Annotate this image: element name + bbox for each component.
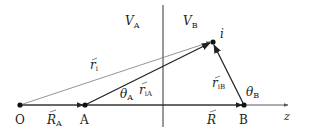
point-i: [210, 39, 215, 44]
diagram-canvas: O A B i z VA VB ri riA riB RA R θA θB: [0, 0, 310, 132]
label-O: O: [15, 113, 25, 127]
svg-text:R: R: [206, 113, 216, 127]
label-r-iB: riB: [212, 76, 225, 91]
label-R: R: [206, 110, 216, 127]
point-A: [82, 102, 87, 107]
label-B: B: [239, 113, 248, 127]
point-O: [17, 102, 22, 107]
vector-r-i: [20, 42, 210, 105]
label-z: z: [283, 110, 290, 123]
svg-text:ri: ri: [90, 58, 99, 73]
point-B: [241, 102, 246, 107]
label-theta-B: θB: [246, 85, 259, 100]
label-V-A: VA: [125, 14, 140, 30]
label-r-iA: riA: [139, 82, 153, 98]
label-theta-A: θA: [120, 87, 133, 102]
label-V-B: VB: [183, 14, 198, 30]
label-A: A: [79, 113, 89, 127]
label-r-i: ri: [90, 58, 99, 73]
label-i: i: [220, 27, 224, 41]
svg-text:riB: riB: [212, 76, 225, 91]
svg-text:riA: riA: [139, 83, 153, 98]
label-R-A: RA: [46, 110, 62, 128]
svg-text:RA: RA: [46, 113, 62, 128]
vector-r-iB: [214, 45, 244, 105]
